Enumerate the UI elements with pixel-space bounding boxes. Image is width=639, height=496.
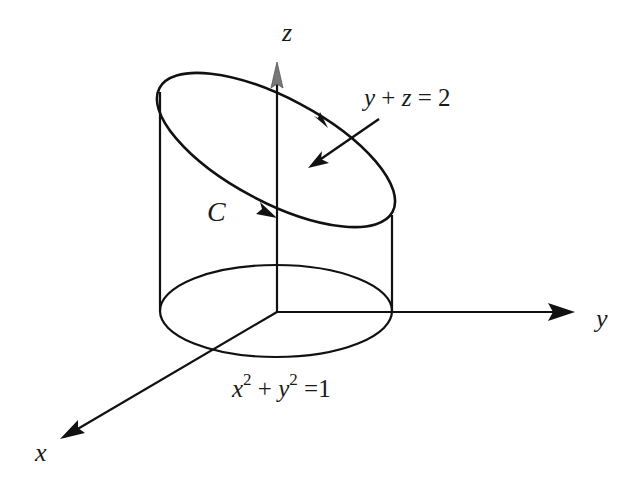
- z-axis-arrowhead: [271, 62, 283, 88]
- plane-eq-var2: z: [402, 84, 412, 111]
- cyl-eq-rhs: 1: [318, 375, 331, 402]
- plane-eq-equals: =: [418, 84, 432, 111]
- diagram-canvas: [0, 0, 639, 496]
- cyl-eq-op: +: [258, 375, 272, 402]
- cyl-eq-equals: =: [304, 375, 318, 402]
- x-axis-label: x: [35, 440, 47, 466]
- plane-eq-var1: y: [364, 84, 375, 111]
- diagram-figure: z y x C y + z = 2 x2 + y2 =1: [0, 0, 639, 496]
- z-axis-label: z: [282, 20, 292, 46]
- cyl-eq-exp1: 2: [243, 370, 252, 389]
- plane-eq-rhs: 2: [438, 84, 451, 111]
- cylinder-equation: x2 + y2 =1: [232, 376, 331, 401]
- x-axis-arrowhead: [60, 420, 85, 439]
- plane-eq-op: +: [381, 84, 395, 111]
- cyl-eq-var2: y: [278, 375, 289, 402]
- cyl-eq-var1: x: [232, 375, 243, 402]
- cyl-eq-exp2: 2: [289, 370, 298, 389]
- curve-c-label: C: [207, 198, 226, 226]
- plane-pointer-arrowhead: [308, 151, 329, 168]
- y-axis-label: y: [596, 306, 608, 332]
- plane-equation: y + z = 2: [364, 85, 451, 110]
